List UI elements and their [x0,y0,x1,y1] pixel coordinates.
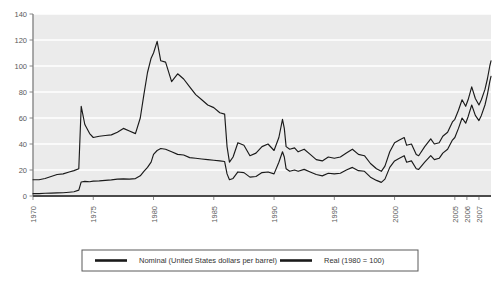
y-tick-label: 80 [19,88,27,97]
x-tick-label: 1980 [150,206,159,223]
x-tick-label: 1970 [29,206,38,223]
x-tick-label: 1985 [210,206,219,223]
plot-area [33,14,491,196]
x-tick-label: 1990 [270,206,279,223]
x-tick-label: 1995 [330,206,339,223]
chart-canvas: 020406080100120140 197019751980198519901… [0,0,497,287]
x-tick-label: 2005 [451,206,460,223]
y-tick-label: 120 [14,36,27,45]
y-tick-label: 60 [19,114,27,123]
legend-label-real: Real (1980 = 100) [324,256,385,265]
x-tick-label: 2007 [475,206,484,223]
chart-legend: Nominal (United States dollars per barre… [82,250,418,271]
legend-label-nominal: Nominal (United States dollars per barre… [139,256,277,265]
y-tick-label: 100 [14,62,27,71]
y-tick-label: 0 [23,192,27,201]
x-tick-label: 1975 [89,206,98,223]
y-tick-label: 40 [19,140,27,149]
y-tick-label: 140 [14,10,27,19]
x-tick-label: 2006 [463,206,472,223]
y-tick-label: 20 [19,166,27,175]
x-tick-label: 2000 [391,206,400,223]
oil-price-chart: 020406080100120140 197019751980198519901… [0,0,497,287]
